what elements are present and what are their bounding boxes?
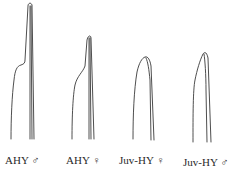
- feather-drawings: [0, 0, 232, 171]
- feather-ahy-male-outline: [11, 3, 34, 139]
- label-juvhy-female: Juv-HY ♀: [119, 154, 164, 166]
- feather-juvhy-female-outline: [133, 57, 154, 140]
- label-ahy-female: AHY ♀: [66, 154, 100, 166]
- label-juvhy-male: Juv-HY ♂: [183, 156, 228, 168]
- feather-diagram: AHY ♂ AHY ♀ Juv-HY ♀ Juv-HY ♂: [0, 0, 232, 171]
- feather-ahy-female-outline: [72, 36, 94, 139]
- label-ahy-male: AHY ♂: [5, 154, 39, 166]
- feather-juvhy-male-outline: [193, 53, 211, 142]
